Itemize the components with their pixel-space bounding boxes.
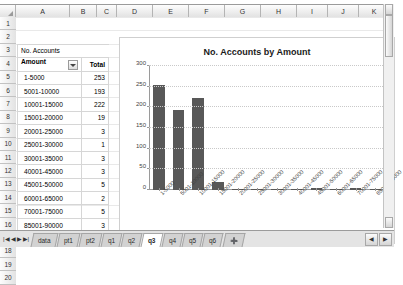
pivot-header-label-text: Amount [21, 58, 46, 65]
sheet-tab-label: q5 [189, 234, 196, 247]
y-axis-tick-mark [147, 65, 149, 66]
chart-gridline [149, 106, 385, 107]
filter-dropdown-icon[interactable] [68, 60, 78, 70]
pivot-row-value: 193 [82, 84, 109, 97]
sheet-tab-q6[interactable]: q6 [202, 233, 224, 247]
pivot-row-value: 1 [82, 138, 109, 151]
row-header-13[interactable]: 13 [0, 178, 16, 191]
table-row[interactable]: 70001-750005 [18, 205, 109, 218]
sheet-tab-label: data [38, 234, 51, 247]
pivot-row-label: 30001-35000 [18, 151, 82, 164]
y-axis-tick-mark [147, 86, 149, 87]
row-header-20[interactable]: 20 [0, 271, 16, 284]
y-axis-tick-label: 50 [139, 163, 146, 169]
chart-gridline [149, 168, 385, 169]
sheet-tab-q2[interactable]: q2 [121, 233, 143, 247]
sheet-tab-q3[interactable]: q3 [141, 233, 164, 247]
h-scroll-left-button[interactable]: ◀ [365, 233, 378, 246]
bar-slot [149, 66, 169, 190]
select-all-triangle-icon [8, 11, 13, 16]
chart-bar[interactable] [173, 110, 184, 190]
pivot-row-value: 3 [82, 165, 109, 178]
row-header-5[interactable]: 5 [0, 71, 16, 84]
table-row[interactable]: 25001-300001 [18, 138, 109, 151]
table-row[interactable]: 20001-250003 [18, 125, 109, 138]
pivot-header-label: Amount [18, 58, 82, 71]
chart-title: No. Accounts by Amount [120, 47, 394, 57]
sheet-tab-label: ➕ [230, 234, 238, 247]
sheet-tab-label: q2 [128, 234, 135, 247]
sheet-nav-buttons[interactable]: |◀◀▶▶| [0, 236, 32, 242]
sheet-tab-➕[interactable]: ➕ [222, 233, 245, 247]
chart-gridline [149, 65, 385, 66]
pivot-header-value: Total [82, 58, 109, 71]
chart-gridline [149, 127, 385, 128]
row-header-15[interactable]: 15 [0, 204, 16, 217]
sheet-tabs[interactable]: datapt1pt2q1q2q3q4q5q6➕ [32, 231, 245, 247]
sheet-nav-button-2[interactable]: ▶ [17, 236, 22, 242]
sheet-tab-label: q4 [169, 234, 176, 247]
row-header-9[interactable]: 9 [0, 124, 16, 137]
sheet-nav-button-3[interactable]: ▶| [23, 236, 30, 242]
row-header-8[interactable]: 8 [0, 111, 16, 124]
horizontal-scroll-controls[interactable]: ◀ ▶ [365, 233, 394, 246]
vertical-scrollbar[interactable] [383, 4, 394, 228]
y-axis-tick-label: 300 [136, 60, 146, 66]
table-row[interactable]: 10001-15000222 [18, 98, 109, 111]
sheet-tab-q1[interactable]: q1 [100, 233, 122, 247]
row-header-1[interactable]: 1 [0, 17, 16, 30]
sheet-tab-data[interactable]: data [31, 233, 59, 247]
pivot-row-value: 253 [82, 71, 109, 84]
pivot-table[interactable]: No. Accounts Amount Total 1-50002535001-… [17, 44, 109, 246]
y-axis-tick-label: 100 [136, 143, 146, 149]
pivot-row-value: 3 [82, 151, 109, 164]
row-header-3[interactable]: 3 [0, 44, 16, 57]
pivot-row-label: 20001-25000 [18, 125, 82, 138]
cell-grid[interactable]: No. Accounts Amount Total 1-50002535001-… [16, 17, 384, 231]
pivot-row-label: 40001-45000 [18, 165, 82, 178]
chart-bar[interactable] [153, 85, 164, 190]
table-row[interactable]: 5001-10000193 [18, 84, 109, 97]
vertical-scroll-thumb[interactable] [385, 15, 393, 57]
y-axis-tick-label: 0 [143, 184, 146, 190]
sheet-tab-q4[interactable]: q4 [161, 233, 183, 247]
row-header-2[interactable]: 2 [0, 30, 16, 43]
scroll-up-button[interactable] [385, 4, 393, 15]
table-row[interactable]: 60001-650002 [18, 192, 109, 205]
row-header-6[interactable]: 6 [0, 84, 16, 97]
table-row[interactable]: 30001-350003 [18, 151, 109, 164]
sheet-tab-pt1[interactable]: pt1 [56, 233, 80, 247]
sheet-nav-button-1[interactable]: ◀ [11, 236, 16, 242]
sheet-tab-pt2[interactable]: pt2 [78, 233, 102, 247]
pivot-row-label: 25001-30000 [18, 138, 82, 151]
row-header-19[interactable]: 19 [0, 258, 16, 271]
chart-gridline [149, 148, 385, 149]
pivot-row-value: 2 [82, 192, 109, 205]
y-axis-tick-mark [147, 168, 149, 169]
row-header-14[interactable]: 14 [0, 191, 16, 204]
scroll-down-button[interactable] [385, 217, 393, 228]
row-header-10[interactable]: 10 [0, 138, 16, 151]
row-header-11[interactable]: 11 [0, 151, 16, 164]
bar-series [149, 66, 385, 190]
pivot-row-value: 5 [82, 205, 109, 218]
bar-chart[interactable]: No. Accounts by Amount 05010015020025030… [119, 37, 395, 244]
sheet-tab-q5[interactable]: q5 [182, 233, 204, 247]
row-header-4[interactable]: 4 [0, 57, 16, 70]
pivot-row-value: 19 [82, 111, 109, 124]
pivot-row-value: 5 [82, 178, 109, 191]
table-row[interactable]: 15001-2000019 [18, 111, 109, 124]
y-axis-tick-mark [147, 148, 149, 149]
table-row[interactable]: 45001-500005 [18, 178, 109, 191]
y-axis-tick-label: 150 [136, 122, 146, 128]
sheet-nav-button-0[interactable]: |◀ [3, 236, 10, 242]
y-axis-tick-mark [147, 106, 149, 107]
row-header-12[interactable]: 12 [0, 164, 16, 177]
h-scroll-right-button[interactable]: ▶ [379, 233, 392, 246]
table-row[interactable]: 1-5000253 [18, 71, 109, 84]
pivot-row-label: 70001-75000 [18, 205, 82, 218]
row-header-7[interactable]: 7 [0, 97, 16, 110]
pivot-header-row: Amount Total [18, 58, 109, 71]
pivot-title: No. Accounts [18, 44, 82, 57]
table-row[interactable]: 40001-450003 [18, 165, 109, 178]
